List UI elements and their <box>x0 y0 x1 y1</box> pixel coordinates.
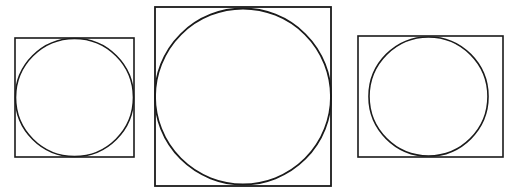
figure-canvas <box>0 0 514 194</box>
figures-svg <box>0 0 514 194</box>
canvas-background <box>0 0 514 194</box>
